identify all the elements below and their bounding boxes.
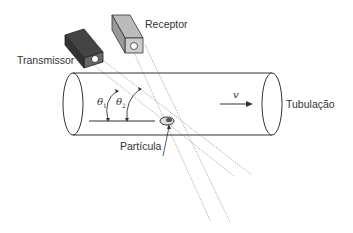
pipe-label: Tubulação (286, 98, 335, 110)
theta2-label: θ2 (116, 96, 126, 109)
transmitter-label: Transmissor (17, 54, 74, 66)
receiver-label: Receptor (145, 18, 188, 30)
pipe-right-end (262, 73, 282, 135)
velocity-label: v (233, 89, 239, 100)
theta1-label: θ1 (97, 96, 107, 109)
pipe-left-end (63, 73, 83, 135)
theta2-arc (127, 89, 140, 120)
particle-label: Partícula (120, 140, 161, 152)
receiver-icon (112, 15, 143, 53)
particle-pointer (163, 127, 169, 156)
ultrasound-beams (90, 45, 252, 222)
doppler-flowmeter-diagram (0, 0, 353, 233)
